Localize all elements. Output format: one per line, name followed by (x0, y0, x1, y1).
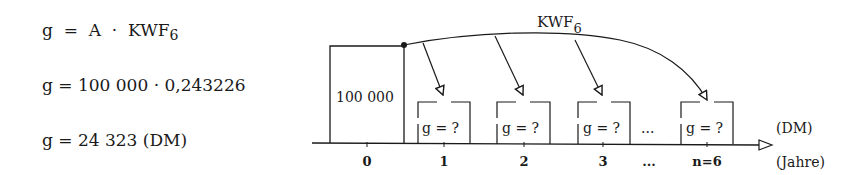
principal-value: 100 000 (336, 89, 394, 105)
tick-label-n: n=6 (692, 154, 721, 169)
axis-label: (Jahre) (776, 154, 825, 170)
payment-arrow-2 (495, 36, 523, 95)
payment-arrow-3 (575, 40, 602, 95)
payment-label-6: g = ? (686, 120, 723, 136)
payment-label-3: g = ? (583, 120, 620, 136)
unit-label: (DM) (776, 120, 812, 136)
payment-label-2: g = ? (502, 120, 539, 136)
time-axis (312, 140, 772, 150)
tick-label-0: 0 (362, 154, 371, 169)
tick-label-2: 2 (519, 154, 528, 169)
payment-ellipsis: ... (641, 120, 654, 136)
tick-label-3: 3 (598, 154, 607, 169)
tick-label-1: 1 (439, 154, 448, 169)
timeline-diagram: 100 000 KWF6 g = ? g = ? g = ? g = ? ...… (0, 0, 862, 175)
kwf-arc-arrow (404, 33, 707, 100)
tick-label-ellipsis: ... (642, 154, 656, 169)
payment-label-1: g = ? (422, 120, 459, 136)
axis-arrow-icon (759, 140, 772, 150)
payment-arrow-1 (423, 43, 443, 95)
